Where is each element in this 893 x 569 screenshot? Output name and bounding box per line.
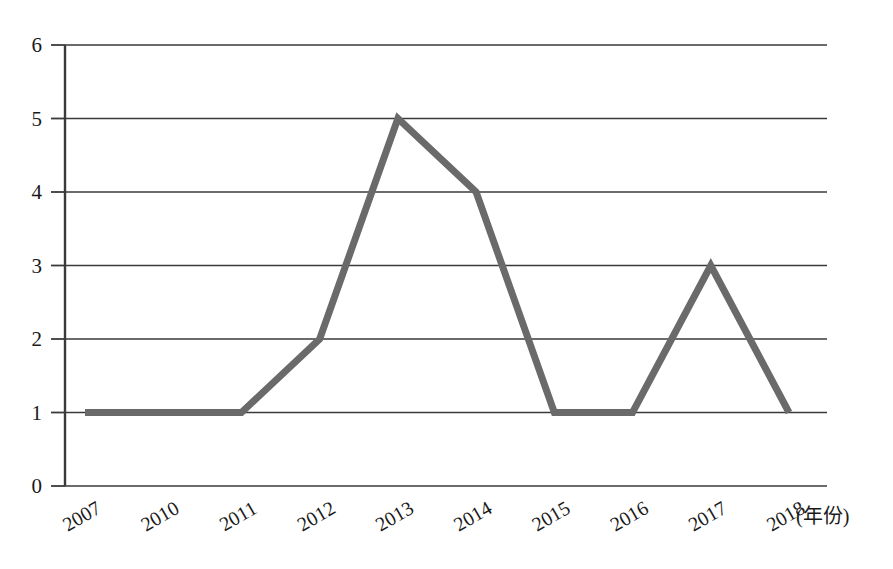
chart-background — [0, 0, 893, 569]
chart-container: 0123456 20072010201120122013201420152016… — [0, 0, 893, 569]
y-tick-label: 5 — [32, 107, 43, 131]
y-tick-label: 6 — [32, 33, 43, 57]
y-tick-label: 2 — [32, 327, 43, 351]
line-chart-svg: 0123456 20072010201120122013201420152016… — [0, 0, 893, 569]
x-axis-title: (年份) — [796, 505, 849, 528]
y-tick-label: 3 — [32, 254, 43, 278]
y-tick-label: 0 — [32, 474, 43, 498]
y-tick-label: 4 — [32, 180, 43, 204]
y-tick-label: 1 — [32, 401, 43, 425]
